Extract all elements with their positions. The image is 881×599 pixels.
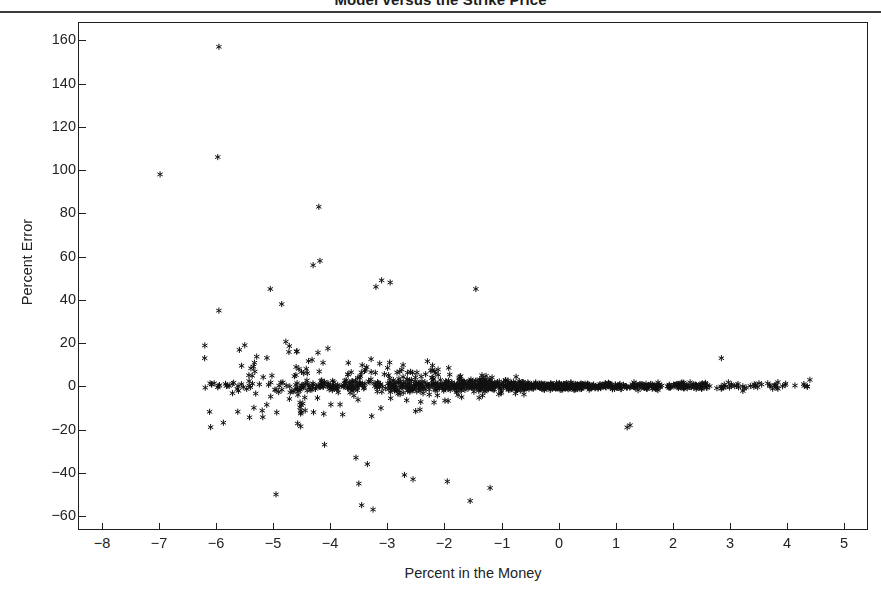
x-axis-label: Percent in the Money — [78, 565, 868, 581]
title-divider-rule — [0, 11, 881, 13]
y-tick-mark — [79, 84, 86, 85]
x-tick-label: −2 — [424, 536, 464, 551]
x-tick-label: 4 — [767, 536, 807, 551]
y-axis-label: Percent Error — [19, 152, 35, 372]
x-tick-mark — [330, 523, 331, 530]
x-tick-label: 0 — [539, 536, 579, 551]
x-tick-mark — [559, 523, 560, 530]
y-tick-label: −60 — [16, 508, 76, 523]
y-tick-mark — [79, 300, 86, 301]
x-tick-label: 2 — [653, 536, 693, 551]
x-tick-label: 3 — [710, 536, 750, 551]
x-tick-mark — [673, 523, 674, 530]
y-tick-label: 160 — [16, 32, 76, 47]
x-tick-label: −1 — [482, 536, 522, 551]
x-tick-label: −8 — [82, 536, 122, 551]
y-tick-mark — [79, 257, 86, 258]
x-tick-mark — [216, 523, 217, 530]
x-tick-mark — [444, 523, 445, 530]
x-tick-mark — [787, 523, 788, 530]
x-tick-mark — [502, 523, 503, 530]
y-tick-label: −20 — [16, 422, 76, 437]
x-tick-mark — [273, 523, 274, 530]
x-tick-label: −6 — [196, 536, 236, 551]
x-tick-label: 5 — [824, 536, 864, 551]
y-tick-mark — [79, 127, 86, 128]
x-tick-label: 1 — [596, 536, 636, 551]
y-tick-mark — [79, 170, 86, 171]
figure: Model versus the Strike Price −60−40−200… — [0, 0, 881, 599]
y-tick-mark — [79, 430, 86, 431]
x-tick-label: −5 — [253, 536, 293, 551]
y-tick-label: −40 — [16, 465, 76, 480]
y-tick-mark — [79, 386, 86, 387]
y-tick-label: 0 — [16, 378, 76, 393]
y-tick-mark — [79, 473, 86, 474]
y-tick-mark — [79, 40, 86, 41]
y-tick-label: 120 — [16, 119, 76, 134]
x-tick-mark — [844, 523, 845, 530]
x-tick-mark — [102, 523, 103, 530]
y-tick-mark — [79, 516, 86, 517]
y-tick-mark — [79, 343, 86, 344]
y-tick-mark — [79, 213, 86, 214]
x-tick-label: −7 — [139, 536, 179, 551]
x-tick-label: −3 — [367, 536, 407, 551]
chart-title: Model versus the Strike Price — [0, 0, 881, 7]
x-tick-mark — [387, 523, 388, 530]
x-tick-mark — [616, 523, 617, 530]
scatter-plot-canvas — [79, 23, 867, 529]
x-tick-mark — [730, 523, 731, 530]
y-tick-label: 140 — [16, 76, 76, 91]
x-tick-mark — [159, 523, 160, 530]
x-tick-label: −4 — [310, 536, 350, 551]
plot-area — [78, 22, 868, 530]
